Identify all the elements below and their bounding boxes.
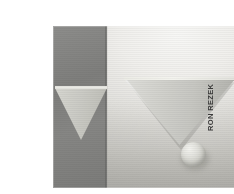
photo-credit: RON REZEK <box>205 77 217 131</box>
sphere <box>181 142 206 167</box>
main-inverted-triangle-top-edge <box>124 77 234 80</box>
left-inverted-triangle-top-edge <box>55 86 107 89</box>
page-root: RON REZEK <box>0 0 234 194</box>
dark-panel-edge <box>105 26 108 188</box>
